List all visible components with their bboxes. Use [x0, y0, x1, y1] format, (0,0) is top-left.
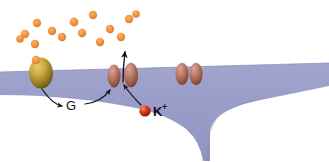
- neurotransmitter-dot: [58, 33, 66, 41]
- neurotransmitter-dot: [125, 15, 133, 23]
- bound-ligand-dot: [32, 56, 40, 64]
- channel-subunit[interactable]: [107, 65, 120, 88]
- neurotransmitter-dot: [16, 35, 24, 43]
- channel-subunit[interactable]: [190, 63, 203, 85]
- channel-subunit[interactable]: [176, 63, 189, 85]
- g-protein-label: G: [66, 98, 76, 113]
- membrane-receptor-group[interactable]: [29, 56, 53, 89]
- neurotransmitter-dot: [78, 29, 86, 37]
- potassium-charge-label: +: [162, 102, 167, 112]
- potassium-ion: [139, 105, 150, 116]
- neurotransmitter-dot: [33, 19, 41, 27]
- neurotransmitter-dot: [132, 10, 140, 18]
- neurotransmitter-dot: [89, 11, 97, 19]
- channel-subunit[interactable]: [124, 63, 138, 87]
- neurotransmitter-dot: [31, 40, 39, 48]
- diagram-canvas: G K +: [0, 0, 329, 162]
- diagram-svg: G K +: [0, 0, 329, 162]
- neurotransmitter-dot: [70, 18, 79, 27]
- neurotransmitter-molecules: [16, 10, 140, 48]
- neurotransmitter-dot: [48, 27, 56, 35]
- neurotransmitter-dot: [117, 33, 125, 41]
- neurotransmitter-dot: [106, 25, 114, 33]
- neurotransmitter-dot: [96, 38, 104, 46]
